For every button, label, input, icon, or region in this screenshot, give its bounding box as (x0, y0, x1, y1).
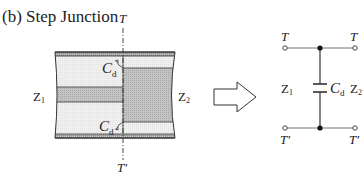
terminal-bottom-right (353, 126, 357, 130)
circuit-label-t-right: T (350, 29, 358, 44)
junction-dot-bottom (317, 125, 322, 130)
equivalent-circuit (283, 45, 357, 130)
step-junction-diagram: (b) Step Junction T T′ Cd Cd Z1 Z2 (0, 0, 363, 174)
impedance-z2-label: Z2 (178, 89, 190, 105)
waveguide-cross-section (50, 52, 185, 142)
plane-label-top: T (119, 11, 127, 26)
circuit-z2-label: Z2 (350, 81, 362, 97)
terminal-top-right (353, 46, 357, 50)
junction-dot-top (317, 45, 322, 50)
circuit-z1-label: Z1 (281, 81, 293, 97)
hollow-right-arrow-icon (214, 82, 256, 112)
circuit-label-t-left: T (281, 29, 289, 44)
terminal-top-left (283, 46, 287, 50)
circuit-cd-label: Cd (330, 80, 345, 98)
figure-title: (b) Step Junction (2, 7, 119, 26)
impedance-z1-label: Z1 (33, 89, 45, 105)
plane-label-bottom: T′ (117, 160, 127, 174)
terminal-bottom-left (283, 126, 287, 130)
circuit-label-tprime-left: T′ (280, 132, 290, 147)
circuit-label-tprime-right: T′ (349, 132, 359, 147)
